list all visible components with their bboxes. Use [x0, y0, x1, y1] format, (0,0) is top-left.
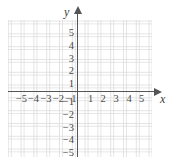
x-axis-tick-label: 3: [110, 94, 123, 105]
y-axis-tick-label: −1: [62, 97, 74, 108]
x-axis-tick-label: 5: [135, 94, 148, 105]
x-axis-tick-label: 1: [84, 94, 97, 105]
y-axis-tick-label: 1: [62, 79, 74, 90]
x-axis-line: [8, 91, 160, 92]
y-axis-tick-label: 2: [62, 66, 74, 77]
y-axis-tick-label: 3: [62, 54, 74, 65]
y-axis-line: [77, 12, 78, 157]
x-axis-tick-label: 2: [97, 94, 110, 105]
x-axis-tick-label: 4: [123, 94, 136, 105]
x-axis-tick-label: −4: [27, 94, 40, 105]
y-axis-tick-label: 4: [62, 41, 74, 52]
x-axis-label: x: [160, 93, 165, 105]
y-axis-tick-label: −2: [62, 110, 74, 121]
y-axis-arrowhead-icon: [74, 6, 82, 14]
grid-background: [8, 20, 152, 157]
y-axis-tick-label: −3: [62, 123, 74, 134]
y-axis-tick-label: −4: [62, 135, 74, 146]
coordinate-plane-figure: y x −5−4−3−2−11234554321−1−2−3−4−5: [0, 0, 173, 164]
y-axis-label: y: [64, 6, 69, 18]
x-axis-tick-label: −3: [40, 94, 53, 105]
y-axis-tick-label: −5: [62, 148, 74, 159]
y-axis-tick-label: 5: [62, 28, 74, 39]
